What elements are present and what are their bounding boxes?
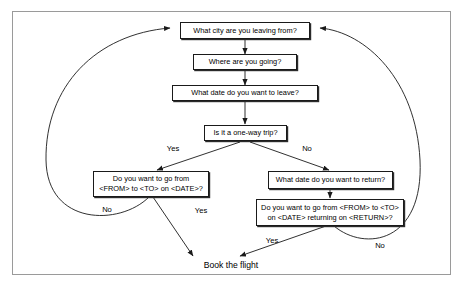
edge-label-confirm-oneway-no: No — [102, 205, 112, 214]
flowchart-canvas: What city are you leaving from? Where ar… — [0, 0, 466, 291]
edge-label-confirm-oneway-yes: Yes — [195, 206, 207, 215]
terminal-book-the-flight: Book the flight — [204, 260, 258, 270]
node-city-from[interactable]: What city are you leaving from? — [180, 22, 310, 39]
edge-label-oneway-yes: Yes — [167, 144, 179, 153]
diagram-frame — [12, 11, 451, 275]
node-destination[interactable]: Where are you going? — [193, 54, 297, 70]
node-depart-date[interactable]: What date do you want to leave? — [172, 85, 318, 101]
node-confirm-return[interactable]: Do you want to go from <FROM> to <TO> on… — [256, 199, 404, 226]
node-confirm-oneway[interactable]: Do you want to go from <FROM> to <TO> on… — [93, 171, 209, 197]
edge-label-confirm-return-yes: Yes — [266, 236, 278, 245]
edge-label-confirm-return-no: No — [375, 241, 385, 250]
edge-label-oneway-no: No — [302, 144, 312, 153]
node-one-way-decision[interactable]: Is it a one-way trip? — [204, 125, 287, 141]
node-return-date[interactable]: What date do you want to return? — [268, 171, 393, 189]
